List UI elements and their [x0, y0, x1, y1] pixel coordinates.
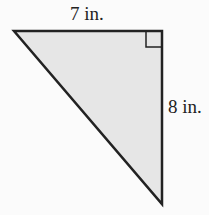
top-side-label: 7 in.: [70, 3, 104, 25]
triangle-shape: [14, 31, 162, 204]
right-side-label: 8 in.: [168, 96, 202, 118]
